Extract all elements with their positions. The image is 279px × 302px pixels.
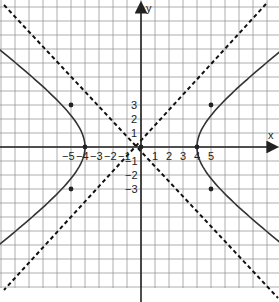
point-marker	[209, 187, 214, 192]
y-tick-label: −1	[125, 155, 138, 167]
point-marker	[69, 187, 74, 192]
point-marker	[195, 145, 200, 150]
x-tick-label: −3	[90, 150, 103, 162]
point-marker	[83, 145, 88, 150]
point-marker	[139, 145, 144, 150]
x-tick-label: −4	[76, 150, 89, 162]
y-tick-label: −2	[125, 169, 138, 181]
y-axis-label: y	[146, 2, 152, 14]
x-tick-label: 2	[166, 150, 172, 162]
point-marker	[209, 103, 214, 108]
point-marker	[69, 103, 74, 108]
y-tick-label: 3	[131, 99, 137, 111]
x-axis-label: x	[268, 129, 274, 141]
x-tick-label: 3	[180, 150, 186, 162]
x-tick-label: −5	[62, 150, 75, 162]
y-tick-label: −3	[125, 183, 138, 195]
y-tick-label: 2	[131, 113, 137, 125]
x-tick-label: 1	[152, 150, 158, 162]
x-tick-label: 4	[194, 150, 200, 162]
y-tick-label: 1	[131, 127, 137, 139]
x-tick-label: 5	[208, 150, 214, 162]
hyperbola-plot: x y −5−4−3−2−112345321−1−2−3	[0, 0, 279, 302]
x-tick-label: −2	[104, 150, 117, 162]
grid	[0, 0, 279, 288]
